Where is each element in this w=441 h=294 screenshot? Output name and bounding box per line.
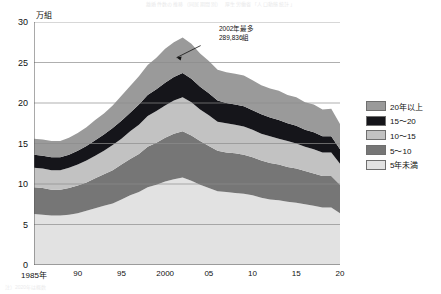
source-note: 注）2020年は概数 bbox=[5, 283, 46, 290]
x-tick-1985: 1985年 bbox=[14, 269, 54, 280]
chart-figure: 離婚件数の推移（同居期間別） 厚生労働省「人口動態統計」 万組 30252015… bbox=[0, 0, 441, 294]
peak-annotation-line1: 2002年最多 bbox=[219, 25, 254, 34]
chart-title: 離婚件数の推移（同居期間別） 厚生労働省「人口動態統計」 bbox=[0, 0, 441, 7]
legend-swatch-1 bbox=[366, 116, 386, 126]
x-tick-2005: 05 bbox=[189, 269, 229, 278]
legend-item-2[interactable]: 10～15 bbox=[366, 128, 440, 143]
legend-swatch-3 bbox=[366, 145, 386, 155]
legend-label-2: 10～15 bbox=[390, 130, 416, 141]
legend-swatch-2 bbox=[366, 130, 386, 140]
plot-area bbox=[34, 22, 340, 265]
legend-label-4: 5年未満 bbox=[390, 159, 418, 170]
legend-item-3[interactable]: 5～10 bbox=[366, 143, 440, 158]
y-tick-5: 5 bbox=[2, 220, 28, 230]
legend-item-1[interactable]: 15～20 bbox=[366, 114, 440, 129]
legend-label-0: 20年以上 bbox=[390, 101, 423, 112]
x-tick-2020: 20 bbox=[320, 269, 360, 278]
legend-item-0[interactable]: 20年以上 bbox=[366, 99, 440, 114]
y-tick-10: 10 bbox=[2, 179, 28, 189]
legend-item-4[interactable]: 5年未満 bbox=[366, 157, 440, 172]
legend-swatch-0 bbox=[366, 101, 386, 111]
legend-label-1: 15～20 bbox=[390, 115, 416, 126]
y-tick-30: 30 bbox=[2, 17, 28, 27]
y-tick-25: 25 bbox=[2, 58, 28, 68]
x-tick-2000: 2000 bbox=[145, 269, 185, 278]
legend-swatch-4 bbox=[366, 160, 386, 170]
x-tick-2010: 10 bbox=[233, 269, 273, 278]
y-axis-unit-label: 万組 bbox=[36, 9, 52, 20]
x-tick-2015: 15 bbox=[276, 269, 316, 278]
y-tick-15: 15 bbox=[2, 139, 28, 149]
x-tick-1990: 90 bbox=[58, 269, 98, 278]
chart-legend: 20年以上15～2010～155～105年未満 bbox=[366, 99, 440, 172]
stacked-area-svg bbox=[34, 22, 340, 265]
y-tick-20: 20 bbox=[2, 98, 28, 108]
x-tick-1995: 95 bbox=[101, 269, 141, 278]
legend-label-3: 5～10 bbox=[390, 145, 411, 156]
peak-annotation-line2: 289,836組 bbox=[219, 34, 250, 43]
